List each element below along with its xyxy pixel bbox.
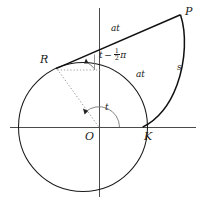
label-tangent-length-at: at (111, 24, 120, 33)
label-point-o: O (85, 131, 94, 142)
fraction-numerator: 1 (114, 48, 120, 55)
label-point-p: P (185, 6, 192, 17)
radius-OR-dotted (58, 70, 99, 127)
tangent-angle-fraction: 12 (114, 48, 120, 63)
tangent-angle-pi: π (120, 50, 126, 60)
label-center-angle-t: t (105, 103, 109, 112)
label-point-k: K (144, 131, 152, 142)
label-involute-arc-s: s (177, 63, 182, 72)
tangent-angle-minus: − (103, 50, 114, 60)
center-angle-arrow-head-icon (83, 109, 88, 115)
involute-figure: P R O K at at s t t−12π (0, 0, 203, 205)
figure-canvas (0, 0, 203, 205)
fraction-denominator: 2 (114, 54, 120, 62)
tangent-angle-arrow-head-icon (84, 59, 89, 64)
center-angle-arc (86, 107, 120, 127)
label-arc-length-at: at (136, 70, 145, 79)
label-tangent-angle-expression: t−12π (99, 48, 126, 63)
label-point-r: R (40, 54, 48, 65)
